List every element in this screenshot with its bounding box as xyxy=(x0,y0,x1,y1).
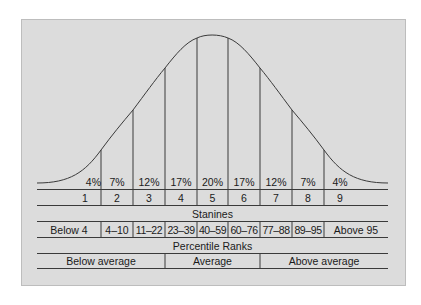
stanine-6: 6 xyxy=(228,192,260,204)
stanine-2: 2 xyxy=(101,192,133,204)
percentile-rank-3: 11–22 xyxy=(133,224,165,236)
percentile-rank-8: 89–95 xyxy=(292,224,324,236)
percentile-rank-4: 23–39 xyxy=(165,224,197,236)
stanine-1: 1 xyxy=(69,192,101,204)
percent-label-4: 17% xyxy=(165,176,197,188)
level-above-average: Above average xyxy=(260,255,388,267)
stanine-8: 8 xyxy=(292,192,324,204)
percent-label-2: 7% xyxy=(101,176,133,188)
rule-percent-bottom xyxy=(37,189,388,190)
level-below-average: Below average xyxy=(37,255,165,267)
percentile-rank-7: 77–88 xyxy=(260,224,292,236)
percentile-rank-9: Above 95 xyxy=(324,224,388,236)
percent-label-6: 17% xyxy=(228,176,260,188)
stanine-3: 3 xyxy=(133,192,165,204)
percentile-rank-5: 40–59 xyxy=(197,224,228,236)
stanine-9: 9 xyxy=(324,192,356,204)
stanine-7: 7 xyxy=(260,192,292,204)
stanines-label: Stanines xyxy=(37,208,388,220)
rule-performance-bottom xyxy=(37,268,388,269)
percent-label-5: 20% xyxy=(197,176,228,188)
percent-label-7: 12% xyxy=(260,176,292,188)
percentile-rank-2: 4–10 xyxy=(101,224,133,236)
rule-percentile-label-bottom xyxy=(37,253,388,254)
stanine-4: 4 xyxy=(165,192,197,204)
percent-label-8: 7% xyxy=(292,176,324,188)
stanine-5: 5 xyxy=(197,192,228,204)
percentile-rank-1: Below 4 xyxy=(37,224,101,236)
percentile-rank-6: 60–76 xyxy=(228,224,260,236)
percent-label-9: 4% xyxy=(324,176,356,188)
level-average: Average xyxy=(165,255,260,267)
percent-label-1: 4% xyxy=(69,176,101,188)
rule-percentile-bottom xyxy=(37,237,388,238)
percentile-ranks-label: Percentile Ranks xyxy=(37,240,388,252)
percent-label-3: 12% xyxy=(133,176,165,188)
rule-stanine-bottom xyxy=(37,205,388,206)
rule-stanines-label-bottom xyxy=(37,221,388,222)
